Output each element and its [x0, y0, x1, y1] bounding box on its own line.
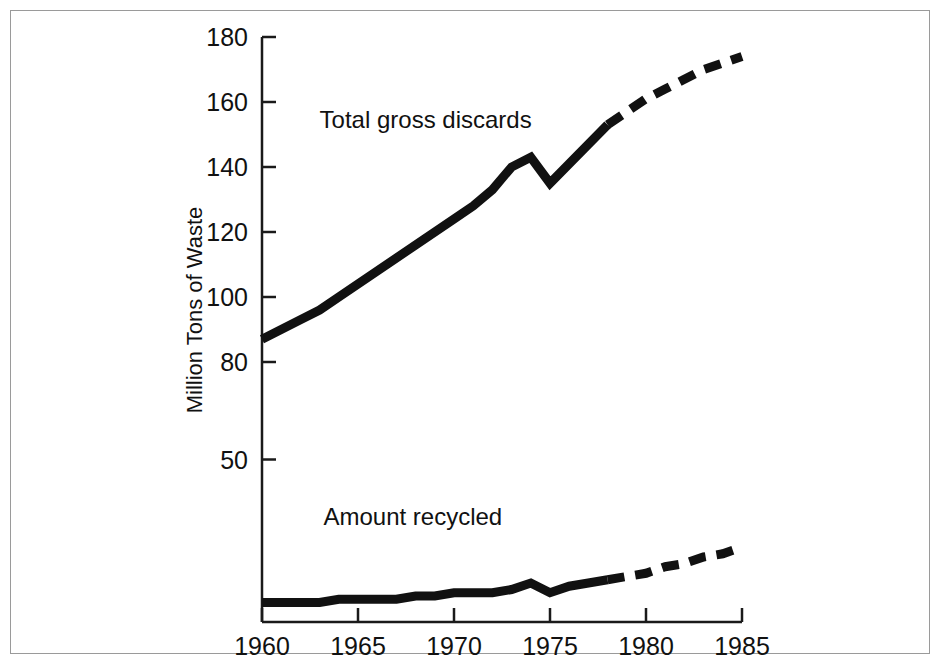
- y-axis-tick-labels: 5080100120140160180: [206, 23, 248, 474]
- y-tick-label-80: 80: [220, 348, 248, 376]
- y-tick-label-100: 100: [206, 283, 248, 311]
- series-0-actual-line: [262, 125, 608, 340]
- y-tick-label-140: 140: [206, 153, 248, 181]
- y-axis-title: Million Tons of Waste: [182, 207, 207, 414]
- x-axis-ticks: [262, 608, 742, 622]
- x-tick-label-1980: 1980: [618, 632, 674, 660]
- y-tick-label-180: 180: [206, 23, 248, 51]
- x-axis-tick-labels: 196019651970197519801985: [234, 632, 770, 660]
- x-tick-label-1965: 1965: [330, 632, 386, 660]
- annotation-amount-recycled: Amount recycled: [323, 503, 502, 530]
- x-tick-label-1970: 1970: [426, 632, 482, 660]
- series-1-projected-line: [608, 547, 742, 580]
- line-chart: 5080100120140160180 19601965197019751980…: [0, 0, 942, 666]
- annotation-total-gross-discards: Total gross discards: [320, 106, 532, 133]
- series-annotations: Total gross discardsAmount recycled: [320, 106, 532, 530]
- x-tick-label-1975: 1975: [522, 632, 578, 660]
- y-tick-label-120: 120: [206, 218, 248, 246]
- y-tick-label-50: 50: [220, 446, 248, 474]
- y-axis-ticks: [262, 37, 276, 460]
- chart-canvas: 5080100120140160180 19601965197019751980…: [0, 0, 942, 666]
- series-0-projected-line: [608, 57, 742, 125]
- y-tick-label-160: 160: [206, 88, 248, 116]
- series-1-actual-line: [262, 580, 608, 603]
- series-total-gross-discards: [262, 57, 742, 340]
- series-amount-recycled: [262, 547, 742, 602]
- x-tick-label-1985: 1985: [714, 632, 770, 660]
- x-tick-label-1960: 1960: [234, 632, 290, 660]
